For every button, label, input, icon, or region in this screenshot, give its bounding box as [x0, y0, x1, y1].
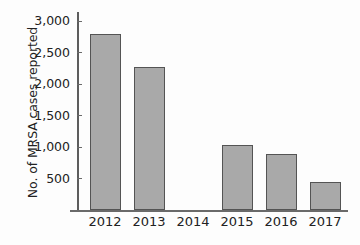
y-tick-label: 500	[26, 173, 70, 185]
x-tick-label-2013: 2013	[126, 214, 172, 230]
x-tick-label-2016: 2016	[258, 214, 304, 230]
plot-area	[77, 12, 343, 211]
x-tick-label-2015: 2015	[214, 214, 260, 230]
x-tick-label-2012: 2012	[82, 214, 128, 230]
bar-2015	[222, 145, 253, 210]
bar-2012	[90, 34, 121, 210]
x-tick-label-2014: 2014	[170, 214, 216, 230]
y-tick-label: 2,500	[26, 47, 70, 59]
y-tick-label: 2,000	[26, 78, 70, 90]
x-tick-label-2017: 2017	[302, 214, 348, 230]
bar-chart: No. of MRSA cases reported 5001,0001,500…	[0, 0, 360, 245]
y-tick-label: 3,000	[26, 15, 70, 27]
bar-2013	[134, 67, 165, 210]
bar-2017	[310, 182, 341, 210]
bar-2016	[266, 154, 297, 210]
y-tick-label: 1,500	[26, 110, 70, 122]
y-tick-label: 1,000	[26, 141, 70, 153]
